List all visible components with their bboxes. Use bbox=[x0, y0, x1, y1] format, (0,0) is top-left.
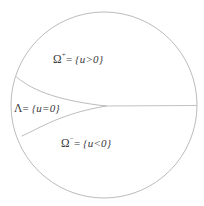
region-label-omega-minus: Ω−= {u<0} bbox=[61, 138, 111, 150]
omega-minus-equals: = bbox=[74, 137, 80, 149]
omega-plus-superscript: + bbox=[62, 51, 66, 59]
lambda-equals: = bbox=[23, 102, 29, 114]
omega-minus-symbol: Ω bbox=[61, 137, 70, 149]
omega-plus-symbol: Ω bbox=[53, 53, 62, 65]
omega-plus-equals: = bbox=[66, 53, 72, 65]
region-label-omega-plus: Ω+= {u>0} bbox=[53, 54, 103, 66]
omega-minus-superscript: − bbox=[70, 135, 74, 143]
figure-canvas: Ω+= {u>0} Λ= {u=0} Ω−= {u<0} bbox=[0, 0, 204, 206]
horizontal-branch-line bbox=[102, 106, 197, 107]
lambda-set: {u=0} bbox=[32, 102, 60, 114]
omega-minus-set: {u<0} bbox=[83, 137, 111, 149]
omega-plus-set: {u>0} bbox=[75, 53, 103, 65]
lambda-symbol: Λ bbox=[14, 102, 23, 114]
region-label-lambda: Λ= {u=0} bbox=[14, 103, 60, 115]
